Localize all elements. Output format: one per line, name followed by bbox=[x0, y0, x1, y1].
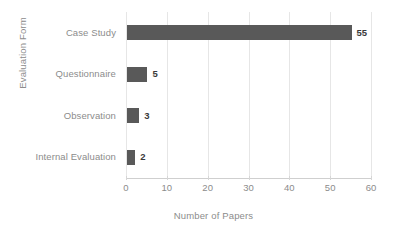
plot-area: 55532 bbox=[126, 12, 371, 178]
category-label: Questionnaire bbox=[56, 68, 116, 80]
tick-label: 20 bbox=[196, 182, 220, 194]
bar-value-label: 2 bbox=[140, 151, 145, 163]
bar[interactable] bbox=[127, 67, 147, 82]
tick-label: 60 bbox=[359, 182, 383, 194]
bar-value-label: 3 bbox=[144, 110, 149, 122]
bar[interactable] bbox=[127, 150, 135, 165]
tick-label: 50 bbox=[318, 182, 342, 194]
tick-mark bbox=[249, 176, 250, 180]
tick-label: 0 bbox=[114, 182, 138, 194]
bar-value-label: 55 bbox=[357, 27, 368, 39]
tick-mark bbox=[289, 176, 290, 180]
tick-mark bbox=[167, 176, 168, 180]
tick-label: 30 bbox=[237, 182, 261, 194]
bar[interactable] bbox=[127, 25, 352, 40]
tick-mark bbox=[208, 176, 209, 180]
category-axis-labels: Case StudyQuestionnaireObservationIntern… bbox=[24, 12, 121, 178]
tick-label: 10 bbox=[155, 182, 179, 194]
category-label: Internal Evaluation bbox=[35, 151, 116, 163]
tick-mark bbox=[371, 176, 372, 180]
tick-mark bbox=[126, 176, 127, 180]
category-label: Observation bbox=[64, 110, 116, 122]
tick-label: 40 bbox=[277, 182, 301, 194]
value-axis-ticks: 0102030405060 bbox=[126, 180, 371, 196]
x-axis-title: Number of Papers bbox=[0, 210, 395, 222]
bar-chart: Evaluation Form Case StudyQuestionnaireO… bbox=[0, 0, 395, 238]
bar-value-label: 5 bbox=[152, 68, 157, 80]
bar[interactable] bbox=[127, 108, 139, 123]
category-label: Case Study bbox=[66, 27, 116, 39]
gridline bbox=[371, 12, 372, 178]
tick-mark bbox=[330, 176, 331, 180]
